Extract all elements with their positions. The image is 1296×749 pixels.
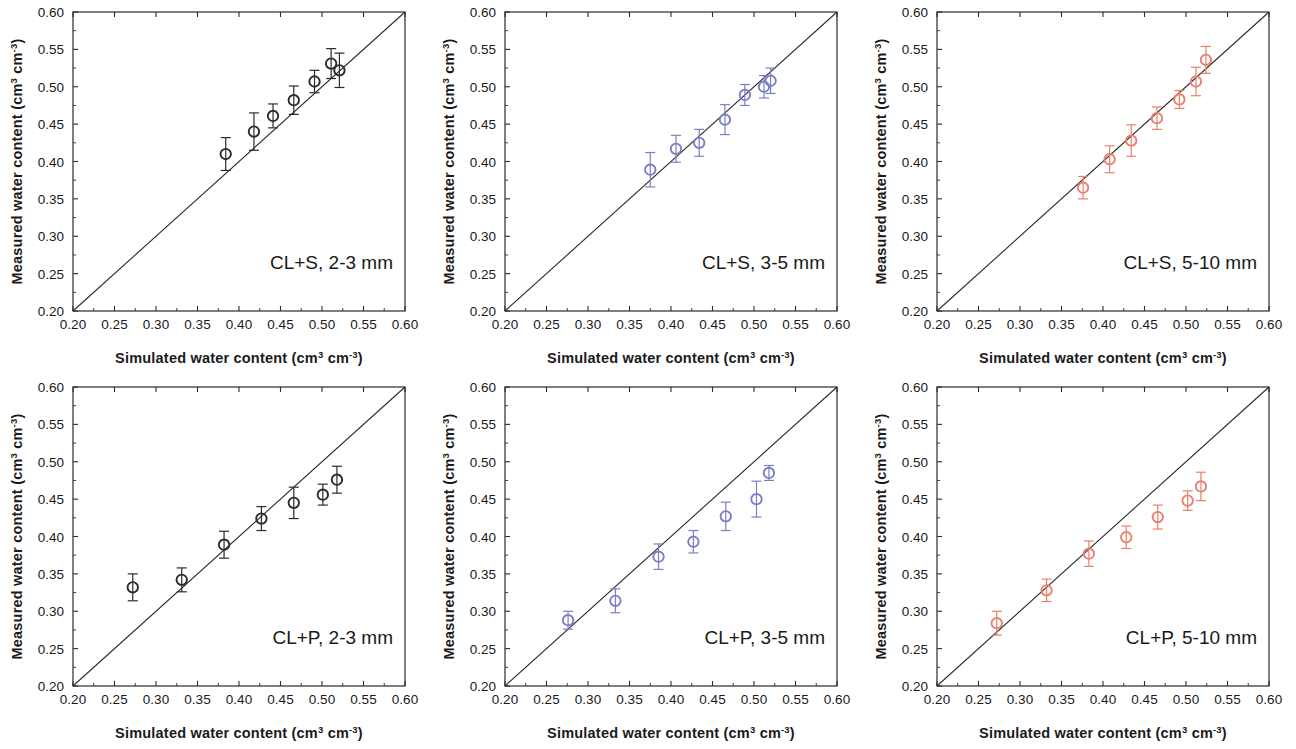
y-tick-label: 0.55: [470, 417, 496, 432]
plot-canvas-cl-s-3-5mm: 0.200.250.300.350.400.450.500.550.600.20…: [432, 0, 864, 374]
data-point: [332, 466, 342, 493]
x-tick-label: 0.50: [309, 317, 335, 332]
data-point: [759, 76, 769, 98]
y-tick-label: 0.30: [38, 229, 64, 244]
x-tick-label: 0.30: [1007, 317, 1033, 332]
x-tick-label: 0.20: [924, 692, 950, 707]
y-tick-label: 0.60: [470, 380, 496, 395]
x-tick-label: 0.40: [658, 692, 684, 707]
y-tick-label: 0.45: [470, 117, 496, 132]
data-point: [289, 487, 299, 518]
panel-label: CL+S, 2-3 mm: [270, 252, 393, 273]
data-point: [256, 507, 266, 531]
y-tick-label: 0.20: [470, 304, 496, 319]
data-point: [334, 53, 344, 87]
y-tick-label: 0.55: [470, 42, 496, 57]
x-tick-label: 0.30: [1007, 692, 1033, 707]
data-point: [1078, 176, 1088, 198]
y-tick-label: 0.50: [470, 455, 496, 470]
data-point: [318, 484, 328, 505]
y-tick-label: 0.35: [38, 567, 64, 582]
data-point: [653, 544, 663, 569]
data-series: [1078, 46, 1211, 198]
y-tick-label: 0.45: [902, 117, 928, 132]
y-tick-label: 0.35: [902, 192, 928, 207]
y-axis-title: Measured water content (cm3 cm-3): [872, 414, 890, 660]
x-tick-label: 0.60: [392, 317, 418, 332]
y-tick-label: 0.25: [902, 267, 928, 282]
x-tick-label: 0.20: [492, 317, 518, 332]
x-tick-label: 0.60: [824, 692, 850, 707]
x-tick-label: 0.30: [143, 692, 169, 707]
scatter-panel-cl-p-2-3mm: 0.200.250.300.350.400.450.500.550.600.20…: [0, 375, 432, 749]
x-tick-label: 0.35: [1048, 317, 1074, 332]
x-tick-label: 0.40: [1090, 692, 1116, 707]
scatter-panel-cl-s-2-3mm: 0.200.250.300.350.400.450.500.550.600.20…: [0, 0, 432, 374]
data-series: [128, 466, 343, 601]
x-tick-label: 0.55: [350, 692, 376, 707]
data-point: [1182, 491, 1192, 510]
data-point: [128, 574, 138, 601]
y-axis-title: Measured water content (cm3 cm-3): [872, 39, 890, 285]
x-tick-label: 0.50: [741, 692, 767, 707]
x-tick-label: 0.30: [143, 317, 169, 332]
data-point: [1196, 472, 1206, 500]
x-tick-label: 0.55: [782, 692, 808, 707]
data-point: [721, 502, 731, 530]
scatter-panel-cl-p-5-10mm: 0.200.250.300.350.400.450.500.550.600.20…: [864, 375, 1296, 749]
y-tick-label: 0.30: [902, 604, 928, 619]
y-tick-label: 0.35: [902, 567, 928, 582]
y-tick-label: 0.40: [38, 155, 64, 170]
x-tick-label: 0.35: [1048, 692, 1074, 707]
data-point: [1084, 541, 1094, 566]
x-tick-label: 0.45: [267, 692, 293, 707]
y-tick-label: 0.40: [470, 530, 496, 545]
data-point: [1153, 505, 1163, 529]
data-point: [671, 135, 681, 162]
y-tick-label: 0.50: [38, 455, 64, 470]
figure-root: 0.200.250.300.350.400.450.500.550.600.20…: [0, 0, 1296, 749]
x-tick-label: 0.55: [1214, 692, 1240, 707]
x-tick-label: 0.25: [101, 317, 127, 332]
y-tick-label: 0.40: [470, 155, 496, 170]
y-tick-label: 0.25: [470, 267, 496, 282]
data-point: [740, 85, 750, 106]
y-tick-label: 0.45: [38, 117, 64, 132]
x-tick-label: 0.25: [965, 317, 991, 332]
y-tick-label: 0.60: [38, 380, 64, 395]
x-tick-label: 0.25: [533, 692, 559, 707]
x-tick-label: 0.50: [309, 692, 335, 707]
x-tick-label: 0.40: [226, 317, 252, 332]
x-tick-label: 0.40: [226, 692, 252, 707]
x-tick-label: 0.60: [1256, 692, 1282, 707]
x-tick-label: 0.55: [782, 317, 808, 332]
plot-canvas-cl-p-2-3mm: 0.200.250.300.350.400.450.500.550.600.20…: [0, 375, 432, 749]
x-tick-label: 0.60: [1256, 317, 1282, 332]
plot-canvas-cl-p-5-10mm: 0.200.250.300.350.400.450.500.550.600.20…: [864, 375, 1296, 749]
y-tick-label: 0.30: [470, 604, 496, 619]
y-tick-label: 0.35: [470, 192, 496, 207]
panel-label: CL+P, 2-3 mm: [272, 627, 393, 648]
panel-label: CL+S, 3-5 mm: [702, 252, 825, 273]
x-tick-label: 0.20: [60, 692, 86, 707]
x-tick-label: 0.55: [350, 317, 376, 332]
data-point: [1201, 46, 1211, 73]
y-tick-label: 0.25: [470, 642, 496, 657]
panel-label: CL+P, 5-10 mm: [1126, 627, 1257, 648]
y-tick-label: 0.40: [902, 530, 928, 545]
y-axis-title: Measured water content (cm3 cm-3): [8, 414, 26, 660]
y-tick-label: 0.50: [902, 455, 928, 470]
y-tick-label: 0.55: [38, 417, 64, 432]
y-tick-label: 0.30: [902, 229, 928, 244]
y-axis-title: Measured water content (cm3 cm-3): [440, 414, 458, 660]
y-tick-label: 0.60: [902, 380, 928, 395]
x-tick-label: 0.35: [616, 317, 642, 332]
y-tick-label: 0.50: [902, 80, 928, 95]
x-tick-label: 0.25: [533, 317, 559, 332]
y-tick-label: 0.45: [38, 492, 64, 507]
y-tick-label: 0.30: [470, 229, 496, 244]
data-point: [268, 104, 278, 128]
y-tick-label: 0.45: [902, 492, 928, 507]
y-tick-label: 0.55: [38, 42, 64, 57]
x-tick-label: 0.60: [392, 692, 418, 707]
